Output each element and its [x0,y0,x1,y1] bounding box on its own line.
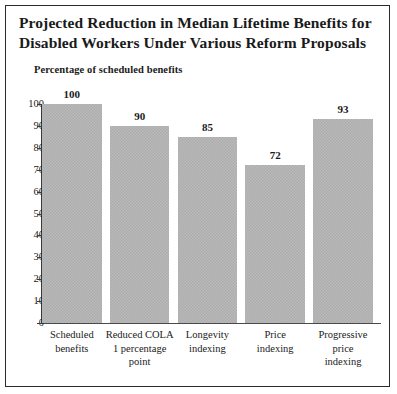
x-axis-category-label: Reduced COLA1 percentagepoint [104,328,176,369]
bar-slot: 90 [110,104,170,323]
x-axis-category-label: Longevityindexing [172,328,244,355]
y-axis-tick-mark [37,323,42,324]
x-axis-category-label-line: 1 percentage [104,342,176,356]
x-axis-category-label: Progressivepriceindexing [307,328,379,369]
bar[interactable] [42,104,102,323]
bar-slot: 93 [313,104,373,323]
x-axis-category-label-line: price [307,342,379,356]
x-axis-category-label: Scheduledbenefits [36,328,108,355]
x-axis-category-label: Priceindexing [239,328,311,355]
x-axis-category-label-line: indexing [307,355,379,369]
x-axis-category-label-line: benefits [36,342,108,356]
x-axis-category-label-line: Progressive [307,328,379,342]
bar[interactable] [245,165,305,323]
bar-slot: 72 [245,104,305,323]
bar-value-label: 90 [110,111,170,122]
x-axis-category-label-line: Reduced COLA [104,328,176,342]
bar-value-label: 93 [313,104,373,115]
bar[interactable] [313,119,373,323]
bar-slot: 85 [178,104,238,323]
bar-value-label: 85 [178,122,238,133]
x-axis-category-label-line: indexing [239,342,311,356]
plot-area: 0102030405060708090100 10090857293 Sched… [6,6,391,388]
chart-figure: Projected Reduction in Median Lifetime B… [5,5,390,387]
bar-series: 10090857293 [42,104,381,323]
x-axis-category-label-line: Longevity [172,328,244,342]
bar-value-label: 72 [245,150,305,161]
x-axis-category-label-line: point [104,355,176,369]
x-axis-baseline [41,323,381,324]
x-axis-category-label-line: Price [239,328,311,342]
bar-value-label: 100 [42,89,102,100]
bar-slot: 100 [42,104,102,323]
bar[interactable] [110,126,170,323]
bar[interactable] [178,137,238,323]
x-axis-category-label-line: indexing [172,342,244,356]
x-axis-category-label-line: Scheduled [36,328,108,342]
